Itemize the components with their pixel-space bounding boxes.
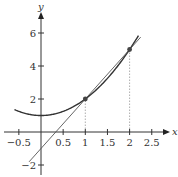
x-tick-label: 0.5 (55, 137, 71, 148)
data-point (83, 97, 88, 102)
x-tick-label: −0.5 (7, 137, 31, 148)
x-axis-label: x (172, 126, 178, 137)
x-tick-label: 2.5 (144, 137, 160, 148)
y-axis-arrow-icon (38, 12, 44, 19)
y-tick-label: 2 (30, 94, 36, 105)
y-tick-label: 4 (30, 61, 36, 72)
y-axis-label: y (37, 1, 44, 12)
x-tick-label: 1.5 (99, 137, 115, 148)
chart: x y −0.50.511.522.5 −2246 (0, 0, 178, 177)
data-point (127, 47, 132, 52)
x-tick-label: 2 (126, 137, 132, 148)
x-tick-label: 1 (82, 137, 88, 148)
y-tick-label: 6 (30, 28, 36, 39)
dotted-guides (85, 50, 129, 133)
x-axis-arrow-icon (163, 129, 170, 135)
y-tick-label: −2 (21, 160, 36, 171)
